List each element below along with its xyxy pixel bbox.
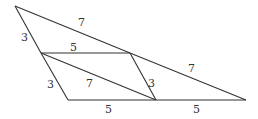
label-CF: 7 (188, 62, 195, 75)
label-CE: 3 (148, 77, 155, 90)
segment-BD (41, 53, 68, 100)
geometry-diagram: 7 7 3 3 5 7 3 5 5 (0, 0, 258, 119)
label-AB: 3 (21, 31, 28, 44)
segment-AB (15, 6, 41, 53)
label-BE: 7 (86, 77, 93, 90)
label-BD: 3 (47, 78, 54, 91)
label-EF: 5 (193, 103, 200, 116)
label-DE: 5 (105, 103, 112, 116)
segment-BE (41, 53, 156, 100)
label-BC: 5 (70, 41, 77, 54)
label-AC: 7 (78, 16, 85, 29)
